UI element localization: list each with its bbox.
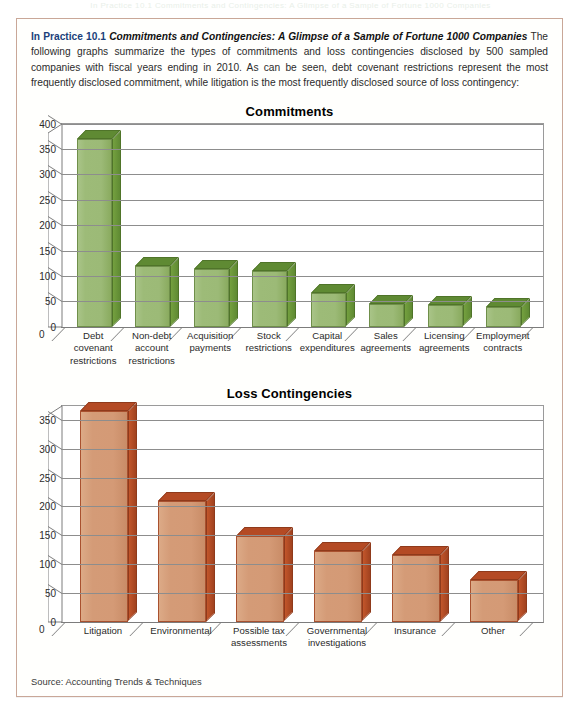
bar: [252, 271, 287, 327]
chart-loss-x-labels: LitigationEnvironmentalPossible taxasses…: [61, 625, 544, 653]
gridline: [62, 593, 543, 594]
gridline: [62, 124, 543, 125]
gridline: [62, 449, 543, 450]
gridline: [62, 301, 543, 302]
bar-side: [284, 528, 293, 622]
bar-side: [170, 257, 179, 327]
in-practice-feature-box: In Practice 10.1 Commitments and Conting…: [16, 18, 563, 697]
chart-loss-bars: [62, 406, 543, 622]
chart-commitments-title: Commitments: [25, 104, 554, 119]
x-axis-label-line: contracts: [466, 342, 539, 355]
bar-top: [80, 402, 137, 411]
gridline: [62, 276, 543, 277]
x-axis-label-line: investigations: [289, 637, 386, 650]
bar-face: [428, 305, 463, 326]
y-tick-label: 200: [39, 501, 56, 512]
bar-side: [128, 403, 137, 622]
gridline: [62, 225, 543, 226]
bar: [194, 269, 229, 327]
bar-side: [440, 546, 449, 622]
bar-face: [135, 266, 170, 327]
chart-commitments-plot: 050100150200250300350400: [61, 123, 544, 328]
bar: [77, 139, 112, 327]
bar-face: [158, 501, 206, 622]
gridline: [62, 174, 543, 175]
y-zero-label: 0: [39, 624, 45, 635]
gridline: [62, 200, 543, 201]
bar-face: [80, 411, 128, 621]
bar: [428, 305, 463, 326]
bar-face: [486, 307, 521, 326]
bar: [135, 266, 170, 327]
bar-face: [311, 293, 346, 326]
bar-side: [229, 260, 238, 327]
bar: [369, 304, 404, 327]
chart-commitments-x-labels: DebtcovenantrestrictionsNon-debtaccountr…: [61, 330, 544, 370]
intro-paragraph: In Practice 10.1 Commitments and Conting…: [31, 29, 548, 91]
y-zero-label: 0: [39, 329, 45, 340]
chart-loss-y-axis: 050100150200250300350: [26, 406, 58, 622]
x-axis-label-line: Employment: [466, 330, 539, 343]
source-note: Source: Accounting Trends & Techniques: [31, 676, 202, 687]
bar-face: [236, 536, 284, 621]
gridline: [62, 149, 543, 150]
y-tick-label: 300: [39, 169, 56, 180]
bar-face: [194, 269, 229, 327]
gridline: [62, 506, 543, 507]
bar-side: [206, 492, 215, 622]
chart-loss-contingencies: Loss Contingencies 050100150200250300350…: [25, 386, 554, 653]
bar: [80, 411, 128, 621]
y-tick-label: 150: [39, 530, 56, 541]
bar-top: [314, 542, 371, 551]
bar-side: [362, 543, 371, 622]
gridline: [62, 420, 543, 421]
gridline: [62, 478, 543, 479]
chart-loss-title: Loss Contingencies: [25, 386, 554, 401]
bar-face: [77, 139, 112, 327]
bar-side: [112, 130, 121, 326]
bar: [311, 293, 346, 326]
bar-top: [158, 492, 215, 501]
bar-face: [314, 551, 362, 621]
y-tick-label: 0: [50, 321, 56, 332]
feature-head-label: In Practice 10.1: [31, 31, 106, 42]
bar-face: [369, 304, 404, 327]
bar-top: [470, 571, 527, 580]
chart-commitments: Commitments 050100150200250300350400 0 D…: [25, 104, 554, 370]
gridline: [62, 564, 543, 565]
x-axis-label: Employmentcontracts: [466, 330, 539, 355]
chart-loss-plot: 050100150200250300350: [61, 405, 544, 623]
x-axis-label-line: Other: [445, 625, 542, 638]
y-tick-label: 200: [39, 220, 56, 231]
bar: [236, 536, 284, 621]
bar: [470, 580, 518, 621]
bar-side: [518, 571, 527, 621]
bar-side: [287, 262, 296, 327]
bar: [158, 501, 206, 622]
bar-top: [392, 546, 449, 555]
gridline: [62, 251, 543, 252]
x-axis-label: Other: [445, 625, 542, 638]
gridline: [62, 535, 543, 536]
bar: [486, 307, 521, 326]
bar-face: [470, 580, 518, 621]
bar-face: [252, 271, 287, 327]
page-bleed-text: In Practice 10.1 Commitments and Conting…: [0, 0, 581, 11]
x-axis-label-line: restrictions: [115, 355, 188, 368]
feature-head-title: Commitments and Contingencies: A Glimpse…: [109, 31, 527, 42]
bar: [314, 551, 362, 621]
